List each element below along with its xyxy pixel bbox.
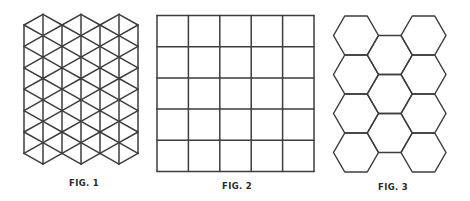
fig1-triangular-grid — [24, 14, 138, 164]
fig1-label: FIG. 1 — [69, 178, 99, 188]
fig3-hexagonal-grid — [334, 16, 447, 172]
fig2-label: FIG. 2 — [222, 181, 252, 191]
fig3-label: FIG. 3 — [378, 182, 408, 192]
fig2-square-grid — [157, 16, 314, 172]
figures-canvas — [0, 0, 470, 201]
